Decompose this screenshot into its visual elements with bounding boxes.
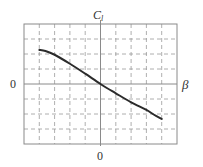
y-tick-zero: 0 bbox=[10, 78, 16, 90]
x-tick-zero: 0 bbox=[97, 150, 103, 162]
y-axis-label-subscript: l bbox=[101, 14, 103, 23]
x-axis-label: β bbox=[182, 78, 188, 91]
chart-plot-area bbox=[0, 0, 203, 167]
y-axis-label: Cl bbox=[93, 9, 103, 23]
y-axis-label-main: C bbox=[93, 8, 101, 22]
